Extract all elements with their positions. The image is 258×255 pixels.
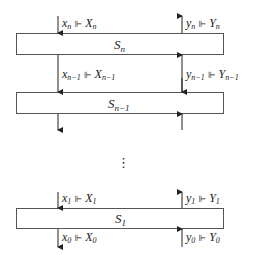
label-yn: yn⊩Yn xyxy=(185,16,220,31)
label-xn-1: xn−1⊩Xn−1 xyxy=(61,67,115,82)
label-x1: x1⊩X1 xyxy=(61,191,97,206)
label-xn: xn⊩Xn xyxy=(61,16,97,31)
label-y1: y1⊩Y1 xyxy=(185,191,220,206)
label-yn-1: yn−1⊩Yn−1 xyxy=(185,67,239,82)
label-y0: y0⊩Y0 xyxy=(185,230,220,245)
label-x0: x0⊩X0 xyxy=(61,230,97,245)
vertical-ellipsis: ⋮ xyxy=(117,155,130,170)
diagram-svg: Sn Sn−1 S1 xn⊩Xn yn⊩Yn xn−1⊩Xn−1 yn−1⊩Yn… xyxy=(0,0,258,255)
stage-chain-diagram: Sn Sn−1 S1 xn⊩Xn yn⊩Yn xn−1⊩Xn−1 yn−1⊩Yn… xyxy=(0,0,258,255)
